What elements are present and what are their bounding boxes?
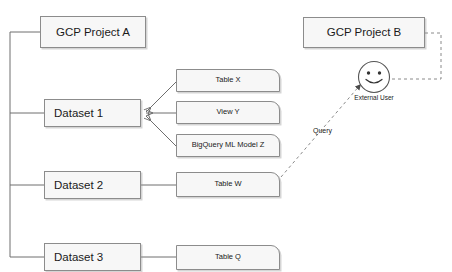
node-label: GCP Project B [327, 26, 402, 39]
node-dataset-3[interactable]: Dataset 3 [44, 243, 141, 271]
node-label: Dataset 2 [54, 179, 103, 192]
edges-dataset1-assets [146, 82, 176, 146]
node-label: Table X [215, 76, 240, 84]
node-bigquery-ml-model-z[interactable]: BigQuery ML Model Z [176, 134, 280, 157]
query-edge-label: Query [313, 127, 332, 134]
node-dataset-1[interactable]: Dataset 1 [44, 99, 141, 127]
node-table-q[interactable]: Table Q [176, 245, 280, 270]
node-label: Dataset 3 [54, 251, 103, 264]
node-gcp-project-b[interactable]: GCP Project B [303, 17, 425, 48]
node-label: Table Q [215, 253, 241, 261]
node-label: GCP Project A [56, 26, 130, 39]
node-table-x[interactable]: Table X [176, 69, 280, 92]
external-user-label: External User [339, 94, 409, 101]
trunk-project-a [10, 32, 44, 257]
node-label: Dataset 1 [54, 107, 103, 120]
smiley-face-icon[interactable] [357, 60, 391, 94]
edges-dataset-assets [141, 185, 176, 257]
node-label: Table W [214, 180, 241, 188]
node-table-w[interactable]: Table W [176, 172, 280, 197]
node-view-y[interactable]: View Y [176, 101, 280, 124]
node-label: BigQuery ML Model Z [192, 141, 265, 149]
node-dataset-2[interactable]: Dataset 2 [44, 171, 141, 199]
diagram-canvas: GCP Project A GCP Project B Dataset 1 Da… [0, 0, 452, 272]
node-gcp-project-a[interactable]: GCP Project A [40, 16, 146, 48]
node-label: View Y [216, 108, 239, 116]
